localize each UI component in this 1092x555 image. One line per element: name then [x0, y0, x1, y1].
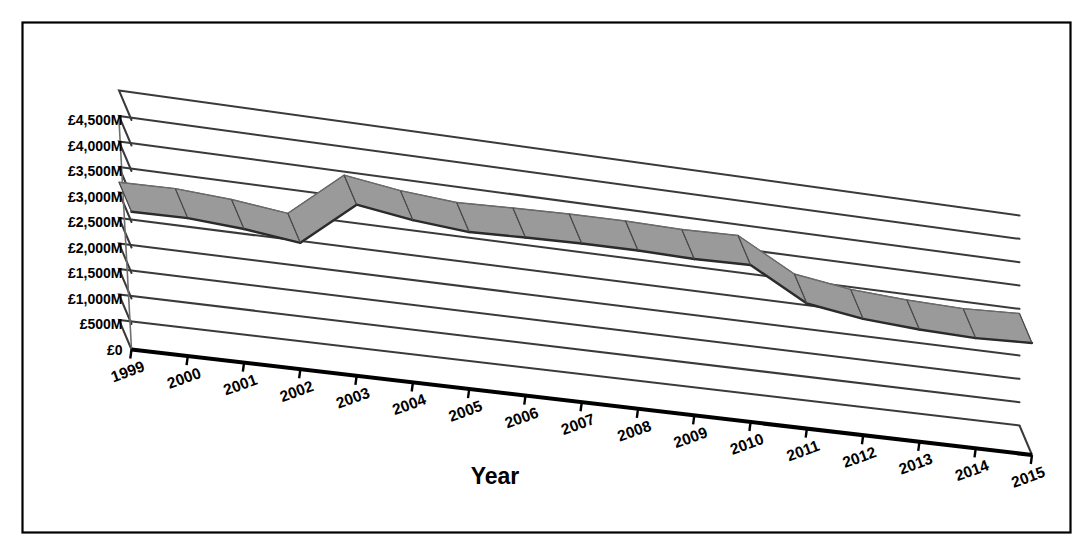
x-axis-title: Year: [471, 463, 520, 489]
x-axis-tick: [243, 363, 244, 372]
x-axis-tick: [1031, 455, 1032, 464]
x-axis-tick: [187, 356, 188, 365]
y-axis-tick-label: £2,000M: [68, 240, 122, 256]
y-axis-tick-label: £500M: [80, 316, 123, 332]
x-axis-tick: [862, 435, 863, 444]
y-axis-tick-label: £4,500M: [68, 112, 122, 128]
x-axis-tick: [412, 382, 413, 391]
x-axis-tick: [581, 402, 582, 411]
x-axis-tick: [524, 396, 525, 405]
x-axis-tick: [299, 369, 300, 378]
y-axis-tick-label: £3,500M: [68, 163, 122, 179]
x-axis-tick: [975, 448, 976, 457]
x-axis-tick: [130, 350, 131, 359]
y-axis-tick-label: £2,500M: [68, 214, 122, 230]
x-axis-tick: [468, 389, 469, 398]
x-axis-tick: [355, 376, 356, 385]
x-axis-tick: [806, 429, 807, 438]
chart-container: £4,500M£4,000M£3,500M£3,000M£2,500M£2,00…: [0, 0, 1092, 555]
y-axis-tick-label: £4,000M: [68, 138, 122, 154]
x-axis-tick: [749, 422, 750, 431]
y-axis-tick-label: £0: [107, 342, 123, 358]
x-axis-tick: [637, 409, 638, 418]
x-axis-tick: [918, 442, 919, 451]
y-axis-tick-label: £1,500M: [68, 265, 122, 281]
y-axis-tick-label: £3,000M: [68, 189, 122, 205]
y-axis-tick-label: £1,000M: [68, 291, 122, 307]
x-axis-tick: [693, 415, 694, 424]
line-chart-3d: £4,500M£4,000M£3,500M£3,000M£2,500M£2,00…: [0, 0, 1092, 555]
